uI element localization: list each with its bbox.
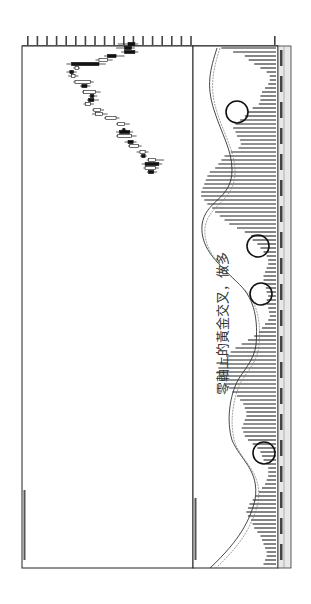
price-tick-label [85, 36, 87, 45]
price-tick-label [113, 36, 115, 45]
date-label [280, 180, 283, 196]
candle-bullish [130, 144, 139, 147]
candle-bearish [142, 154, 145, 157]
candle-bullish [96, 112, 103, 115]
date-label [280, 154, 283, 170]
date-label [280, 466, 283, 482]
candle-bearish [119, 130, 129, 133]
candle-bullish [94, 108, 101, 111]
candle-bearish [128, 140, 133, 143]
candle-bearish [90, 94, 93, 97]
candle-bullish [72, 74, 75, 77]
price-tick-label [190, 36, 192, 45]
candle-bullish [145, 166, 155, 169]
candle-bearish [145, 162, 159, 165]
candle-bullish [75, 66, 78, 69]
date-label [280, 544, 283, 560]
candle-bullish [85, 102, 90, 105]
date-label [280, 258, 283, 274]
date-label [280, 206, 283, 222]
price-panel-frame [22, 46, 193, 568]
date-label [280, 362, 283, 378]
date-label [280, 76, 283, 92]
date-label [280, 518, 283, 534]
candle-bearish [149, 170, 154, 173]
price-tick-label [27, 36, 29, 45]
date-label [280, 232, 283, 248]
date-label [280, 336, 283, 352]
price-tick-label [37, 36, 39, 45]
candle-bullish [106, 116, 116, 119]
candle-bullish [84, 90, 96, 93]
date-label [280, 414, 283, 430]
candle-bearish [125, 46, 132, 49]
date-label [280, 284, 283, 300]
price-tick-label [152, 36, 154, 45]
price-axis-ticks [22, 36, 278, 46]
annotation-text: 零軸上的黃金交叉，做多 [212, 252, 231, 395]
date-label [280, 50, 283, 66]
date-label [280, 388, 283, 404]
price-tick-label [181, 36, 183, 45]
candle-bullish [118, 122, 125, 125]
price-tick-label [75, 36, 77, 45]
date-label [280, 440, 283, 456]
price-tick-label [94, 36, 96, 45]
candle-bullish [149, 158, 156, 161]
macd-tick-label [274, 36, 276, 45]
candle-bearish [70, 70, 73, 73]
candle-bearish [108, 54, 117, 57]
candle-bearish [89, 98, 94, 101]
price-tick-label [56, 36, 58, 45]
macd-stock-chart [0, 0, 311, 604]
date-label [280, 492, 283, 508]
price-legend-text [24, 490, 26, 560]
date-label [280, 128, 283, 144]
candle-bullish [140, 150, 145, 153]
candle-bearish [125, 50, 135, 53]
candle-bullish [75, 80, 90, 83]
candle-bearish [72, 62, 99, 65]
date-axis-column [278, 46, 291, 568]
price-tick-label [171, 36, 173, 45]
candle-bullish [118, 134, 132, 137]
candle-bearish [82, 84, 87, 87]
price-tick-label [142, 36, 144, 45]
macd-legend-text [195, 498, 197, 560]
price-tick-label [46, 36, 48, 45]
price-tick-label [161, 36, 163, 45]
date-label [280, 310, 283, 326]
price-tick-label [104, 36, 106, 45]
date-label [280, 102, 283, 118]
candle-bearish [128, 42, 135, 45]
candle-bullish [99, 58, 108, 61]
price-tick-label [65, 36, 67, 45]
